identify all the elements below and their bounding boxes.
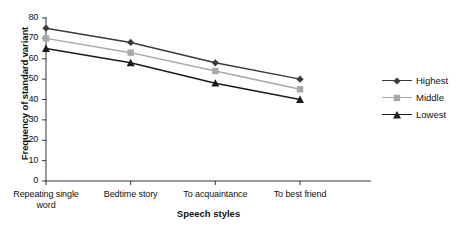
- legend-diamond-icon: [393, 77, 400, 84]
- data-point-highest-3: [296, 76, 303, 83]
- data-point-middle-0: [43, 35, 49, 41]
- y-axis-tick-label: 30: [16, 114, 38, 124]
- data-point-highest-1: [127, 39, 134, 46]
- y-axis-tick-label: 20: [16, 134, 38, 144]
- legend-label: Middle: [412, 92, 444, 103]
- x-axis-tick-label: Bedtime story: [85, 189, 177, 200]
- y-axis-tick-label: 70: [16, 32, 38, 42]
- data-point-middle-1: [127, 49, 133, 55]
- legend-item-middle: Middle: [382, 89, 467, 106]
- legend-label: Highest: [412, 75, 448, 86]
- data-point-highest-2: [212, 59, 219, 66]
- legend: HighestMiddleLowest: [382, 72, 467, 123]
- legend-label: Lowest: [412, 109, 446, 120]
- series-line-lowest: [46, 49, 300, 100]
- legend-item-highest: Highest: [382, 72, 467, 89]
- y-axis-tick-label: 10: [16, 155, 38, 165]
- legend-marker-diamond-icon: [382, 74, 412, 88]
- legend-item-lowest: Lowest: [382, 106, 467, 123]
- data-point-lowest-0: [42, 45, 50, 52]
- series-line-middle: [46, 38, 300, 89]
- data-point-middle-2: [212, 68, 218, 74]
- x-axis-title: Speech styles: [46, 208, 371, 219]
- y-axis-tick-label: 80: [16, 12, 38, 22]
- y-axis-tick-label: 40: [16, 94, 38, 104]
- legend-square-icon: [394, 94, 400, 100]
- legend-marker-square-icon: [382, 91, 412, 105]
- legend-triangle-icon: [393, 111, 401, 118]
- legend-marker-triangle-icon: [382, 108, 412, 122]
- data-point-highest-0: [42, 25, 49, 32]
- series-line-highest: [46, 28, 300, 79]
- y-axis-tick-label: 50: [16, 73, 38, 83]
- x-axis-tick-label: To acquaintance: [169, 189, 261, 200]
- x-axis-tick-label: To best friend: [254, 189, 346, 200]
- y-axis-tick-label: 60: [16, 53, 38, 63]
- data-point-middle-3: [297, 86, 303, 92]
- y-axis-tick-label: 0: [16, 175, 38, 185]
- x-axis-tick-label: Repeating singleword: [0, 189, 92, 211]
- line-chart: Frequency of standard variant Speech sty…: [0, 0, 467, 233]
